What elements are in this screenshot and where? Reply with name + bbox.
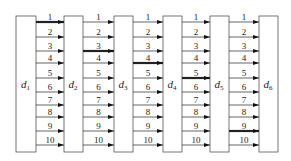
- arrow-label: 2: [48, 27, 53, 37]
- arrow-label: 9: [194, 121, 199, 131]
- arrow-label: 1: [96, 12, 101, 22]
- arrow-label: 4: [194, 53, 199, 63]
- arrow-label: 9: [48, 121, 53, 131]
- arrow-label: 10: [240, 135, 250, 145]
- arrow-label: 7: [48, 95, 53, 105]
- arrow-label: 5: [96, 68, 101, 78]
- arrow-label: 9: [242, 121, 247, 131]
- arrow-label: 6: [48, 82, 53, 92]
- arrow-label: 4: [48, 53, 53, 63]
- channel-diagram: d1d2d3d4d5d6 123456789101234567891012345…: [0, 0, 291, 161]
- arrow-label: 6: [194, 82, 199, 92]
- arrow-label: 8: [48, 107, 53, 117]
- arrow-label: 1: [48, 12, 53, 22]
- arrow-label: 8: [96, 107, 101, 117]
- arrow-label: 5: [242, 68, 247, 78]
- arrow-label: 2: [146, 27, 151, 37]
- arrow-label: 6: [242, 82, 247, 92]
- arrow-label: 5: [146, 68, 151, 78]
- arrow-label: 3: [146, 41, 151, 51]
- arrow-label: 7: [194, 95, 199, 105]
- arrow-label: 6: [146, 82, 151, 92]
- arrow-label: 3: [96, 41, 101, 51]
- arrow-label: 2: [96, 27, 101, 37]
- arrow-label: 1: [194, 12, 199, 22]
- arrow-label: 7: [146, 95, 151, 105]
- arrow-label: 7: [242, 95, 247, 105]
- arrow-label: 10: [46, 135, 56, 145]
- arrow-label: 4: [96, 53, 101, 63]
- arrow-label: 8: [146, 107, 151, 117]
- arrow-label: 5: [48, 68, 53, 78]
- arrow-label: 4: [146, 53, 151, 63]
- arrow-label: 4: [242, 53, 247, 63]
- arrow-label: 1: [242, 12, 247, 22]
- arrow-label: 8: [242, 107, 247, 117]
- arrow-label: 3: [242, 41, 247, 51]
- arrow-label: 2: [194, 27, 199, 37]
- arrow-label: 10: [94, 135, 104, 145]
- arrow-label: 7: [96, 95, 101, 105]
- arrow-label: 2: [242, 27, 247, 37]
- arrow-label: 9: [96, 121, 101, 131]
- arrow-label: 3: [194, 41, 199, 51]
- arrow-label: 1: [146, 12, 151, 22]
- arrow-label: 6: [96, 82, 101, 92]
- arrow-label: 5: [194, 68, 199, 78]
- arrow-label: 8: [194, 107, 199, 117]
- arrow-label: 10: [144, 135, 154, 145]
- arrow-label: 10: [192, 135, 202, 145]
- arrow-label: 9: [146, 121, 151, 131]
- arrow-label: 3: [48, 41, 53, 51]
